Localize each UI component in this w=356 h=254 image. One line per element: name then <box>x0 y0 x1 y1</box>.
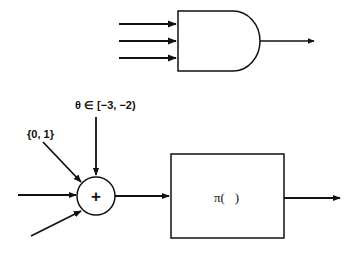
and-gate <box>119 11 314 71</box>
diagram-canvas: θ ∈ [−3, −2) {0, 1} + π( ) <box>0 0 356 254</box>
binary-input-label: {0, 1} <box>27 128 55 140</box>
neuron: θ ∈ [−3, −2) {0, 1} + π( ) <box>18 99 340 238</box>
sum-symbol: + <box>91 187 101 206</box>
lower-input-arrow <box>31 211 81 236</box>
binary-input-arrow <box>43 142 81 182</box>
and-gate-body <box>178 11 260 71</box>
activation-label: π( ) <box>214 190 239 205</box>
threshold-label: θ ∈ [−3, −2) <box>75 99 136 111</box>
